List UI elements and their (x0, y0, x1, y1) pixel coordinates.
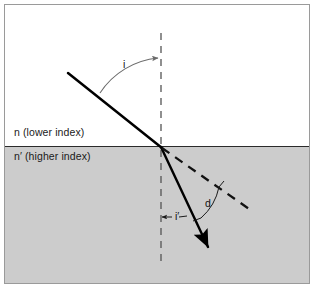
figure-frame: n (lower index) n′ (higher index) (4, 4, 310, 284)
incident-ray (68, 73, 162, 148)
angle-of-refraction-label: i′ (175, 210, 179, 222)
ray-vector-layer (5, 5, 310, 284)
angle-of-incidence-arc (100, 58, 158, 93)
refraction-diagram-figure: n (lower index) n′ (higher index) (0, 0, 316, 290)
deviation-tick-to-undeviated-line (219, 181, 224, 187)
angle-of-refraction-arc (179, 216, 187, 217)
angle-of-incidence-label: i (123, 58, 125, 70)
refracted-ray (161, 147, 208, 247)
deviation-angle-label: d (205, 197, 211, 209)
